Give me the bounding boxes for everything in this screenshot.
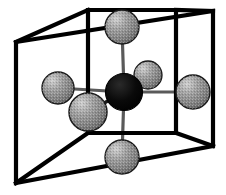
cube-connector-top-right xyxy=(176,10,213,11)
atom-ligand-right xyxy=(176,75,210,109)
crystal-structure-diagram xyxy=(0,0,226,195)
atom-ligand-front xyxy=(69,93,107,131)
atom-ligand-bottom xyxy=(105,140,139,174)
atom-central xyxy=(106,74,143,111)
crystal-structure-figure xyxy=(0,0,226,195)
atom-ligand-left xyxy=(42,72,74,104)
atom-ligand-top xyxy=(105,10,139,44)
